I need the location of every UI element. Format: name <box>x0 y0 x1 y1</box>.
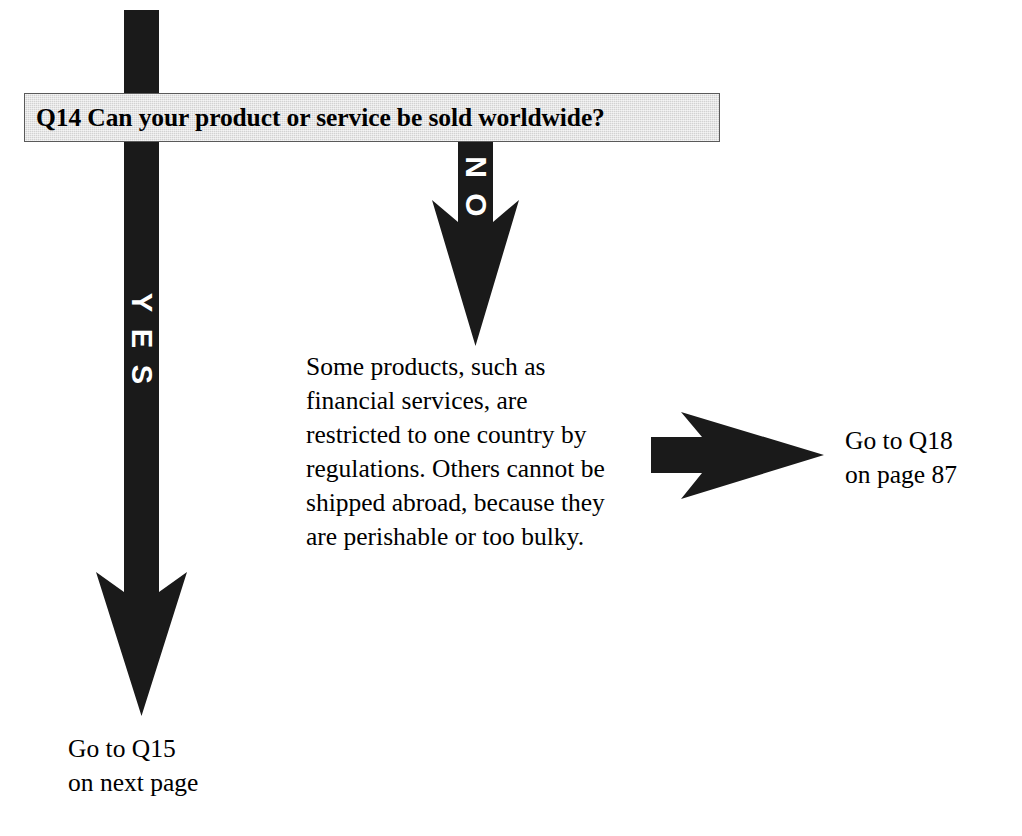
yes-arrow-head <box>96 568 187 716</box>
no-branch-note-line-4: regulations. Others cannot be <box>306 452 666 486</box>
outcome-goto-q15-line-2: on next page <box>68 766 368 800</box>
branch-label-no-char-2: O <box>461 188 491 223</box>
q18-branch-arrow <box>651 412 824 499</box>
branch-label-yes: Y E S <box>124 288 159 396</box>
no-branch-note-line-3: restricted to one country by <box>306 418 666 452</box>
no-branch-note-line-5: shipped abroad, because they <box>306 486 666 520</box>
no-branch-note-line-2: financial services, are <box>306 384 666 418</box>
question-text: Q14 Can your product or service be sold … <box>25 105 605 131</box>
question-banner: Q14 Can your product or service be sold … <box>24 93 720 142</box>
branch-label-yes-char-1: Y <box>127 285 156 320</box>
q18-arrow-head <box>678 412 824 499</box>
branch-label-no: N O <box>458 152 493 228</box>
outcome-goto-q15: Go to Q15 on next page <box>68 732 368 800</box>
no-branch-note-line-1: Some products, such as <box>306 350 666 384</box>
branch-label-yes-char-2: E <box>127 321 156 356</box>
no-branch-note-line-6: are perishable or too bulky. <box>306 520 666 554</box>
outcome-goto-q18-line-1: Go to Q18 <box>845 424 1020 458</box>
branch-label-yes-char-3: S <box>127 357 156 392</box>
outcome-goto-q15-line-1: Go to Q15 <box>68 732 368 766</box>
flowchart-canvas: Q14 Can your product or service be sold … <box>0 0 1022 836</box>
outcome-goto-q18: Go to Q18 on page 87 <box>845 424 1020 492</box>
branch-label-no-char-1: N <box>461 150 491 185</box>
outcome-goto-q18-line-2: on page 87 <box>845 458 1020 492</box>
no-branch-note: Some products, such as financial service… <box>306 350 666 554</box>
